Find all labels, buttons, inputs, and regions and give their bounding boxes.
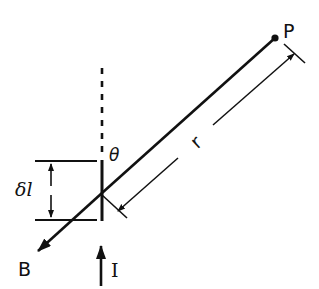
r-dimension-arrow-upper — [213, 54, 294, 125]
distance-r-label: r — [186, 131, 207, 153]
r-dimension-arrow-lower — [118, 158, 178, 211]
angle-theta-label: θ — [109, 145, 120, 165]
current-i-label: I — [111, 259, 119, 281]
diagram-canvas: P r θ δl B I — [0, 0, 319, 289]
field-direction-arrow — [38, 193, 102, 251]
diagram-svg: P r θ δl B I — [0, 0, 319, 289]
point-p-label: P — [283, 20, 294, 42]
point-p-dot — [271, 34, 278, 41]
element-length-label: δl — [15, 178, 33, 200]
field-b-label: B — [18, 258, 31, 280]
radius-line — [102, 38, 275, 193]
